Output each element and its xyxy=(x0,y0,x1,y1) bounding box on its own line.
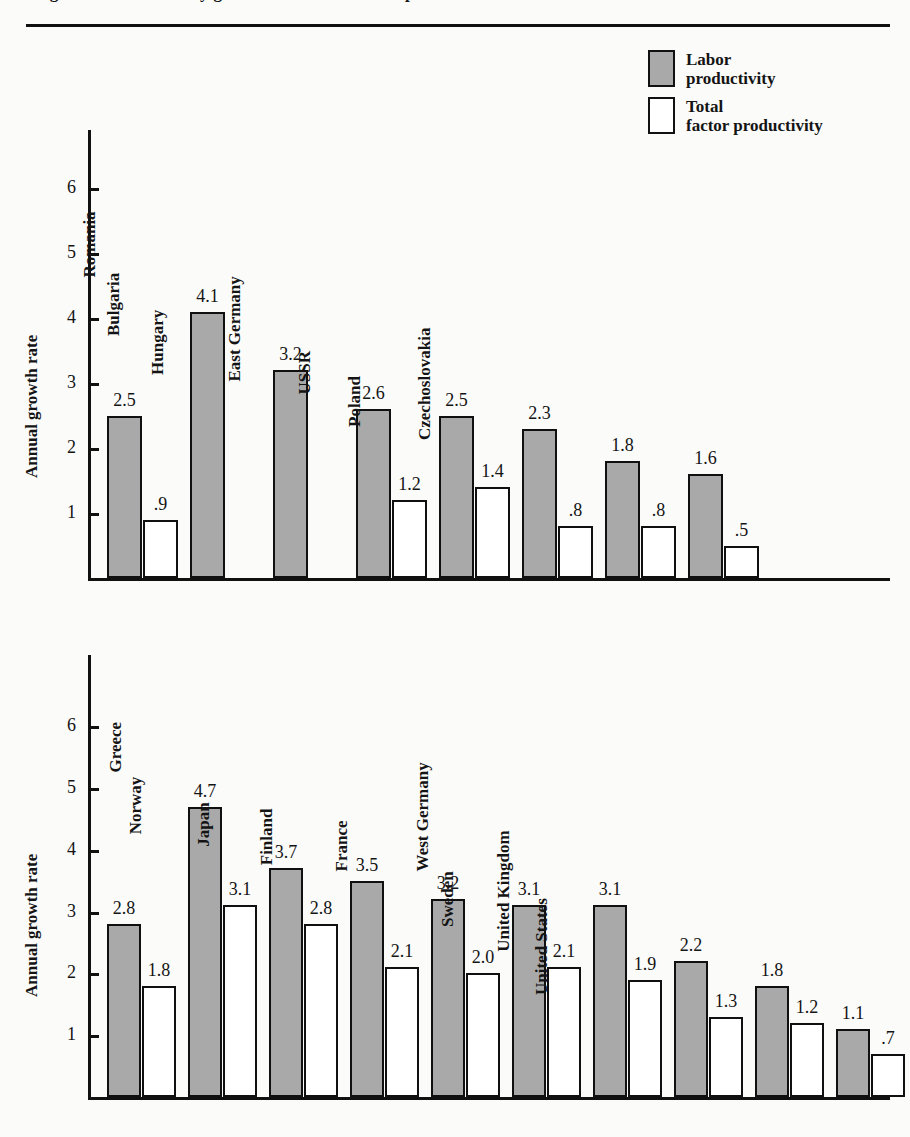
category-label: Czechoslovakia xyxy=(415,328,725,440)
y-axis-tick-label: 6 xyxy=(54,177,76,198)
bar-labor-productivity xyxy=(431,899,465,1097)
bar-value-label: 2.5 xyxy=(101,390,148,411)
bar-value-label: 1.2 xyxy=(386,474,433,495)
bar-total-factor-productivity xyxy=(790,1023,824,1097)
y-axis-tick-label: 2 xyxy=(54,437,76,458)
figure-title-cutoff: Figure x.x Productivity growth in social… xyxy=(34,0,625,3)
x-axis-line xyxy=(88,1097,890,1100)
bar-total-factor-productivity xyxy=(475,487,510,578)
bar-total-factor-productivity xyxy=(223,905,257,1097)
bar-value-label: 1.4 xyxy=(469,461,516,482)
bar-total-factor-productivity xyxy=(392,500,427,578)
bar-total-factor-productivity xyxy=(385,967,419,1097)
bar-value-label: 1.8 xyxy=(136,960,182,981)
bar-total-factor-productivity xyxy=(466,973,500,1097)
y-axis-tick xyxy=(88,912,99,915)
plot-area-capitalist: Annual growth rate1234562.8Capitalist av… xyxy=(0,655,910,1115)
legend-item-labor-productivity: Labor productivity xyxy=(648,50,823,88)
square-swatch-gray-icon xyxy=(648,50,675,87)
bar-value-label: .9 xyxy=(137,494,184,515)
bar-value-label: 1.2 xyxy=(784,997,830,1018)
category-label: Romania xyxy=(80,211,228,277)
bar-value-label: 3.1 xyxy=(217,879,263,900)
bar-total-factor-productivity xyxy=(724,546,759,579)
legend-label-line1: Labor xyxy=(686,50,775,69)
square-swatch-white-icon xyxy=(648,97,675,134)
y-axis-tick xyxy=(88,448,99,451)
legend-label-labor-productivity: Labor productivity xyxy=(686,50,775,88)
y-axis-tick-label: 1 xyxy=(54,502,76,523)
bar-value-label: 2.1 xyxy=(379,941,425,962)
bar-total-factor-productivity xyxy=(304,924,338,1097)
bar-value-label: .5 xyxy=(718,520,765,541)
y-axis-tick-label: 2 xyxy=(54,962,76,983)
y-axis-tick-label: 1 xyxy=(54,1024,76,1045)
bar-total-factor-productivity xyxy=(709,1017,743,1097)
chart-capitalist-economies: Annual growth rate1234562.8Capitalist av… xyxy=(0,655,910,1115)
chart-socialist-economies: Annual growth rate1234562.5Socialist ave… xyxy=(0,130,910,600)
horizontal-rule xyxy=(26,24,890,27)
bar-total-factor-productivity xyxy=(142,986,176,1097)
bar-value-label: 1.1 xyxy=(830,1003,876,1024)
bar-total-factor-productivity xyxy=(641,526,676,578)
bar-total-factor-productivity xyxy=(628,980,662,1097)
bar-value-label: 1.6 xyxy=(682,448,729,469)
y-axis-tick-label: 3 xyxy=(54,901,76,922)
bar-labor-productivity xyxy=(188,807,222,1097)
legend-label-line2: productivity xyxy=(686,69,775,88)
bar-value-label: 2.8 xyxy=(298,898,344,919)
legend-label-line1: Total xyxy=(686,97,823,116)
bar-labor-productivity xyxy=(350,881,384,1097)
bar-total-factor-productivity xyxy=(143,520,178,579)
x-axis-line xyxy=(88,578,890,581)
y-axis-tick xyxy=(88,513,99,516)
bar-total-factor-productivity xyxy=(871,1054,905,1097)
category-label: Capitalist average xyxy=(0,758,143,890)
bar-value-label: .8 xyxy=(552,500,599,521)
y-axis-tick xyxy=(88,383,99,386)
y-axis-tick xyxy=(88,726,99,729)
plot-area-socialist: Annual growth rate1234562.5Socialist ave… xyxy=(0,130,910,600)
bar-value-label: 2.8 xyxy=(101,898,147,919)
bar-labor-productivity xyxy=(273,370,308,578)
y-axis-tick xyxy=(88,973,99,976)
y-axis-tick xyxy=(88,1035,99,1038)
bar-total-factor-productivity xyxy=(558,526,593,578)
category-label: United States xyxy=(532,898,872,995)
bar-value-label: .7 xyxy=(865,1028,910,1049)
y-axis-tick xyxy=(88,188,99,191)
bar-labor-productivity xyxy=(107,924,141,1097)
category-label: Greece xyxy=(106,722,224,773)
bar-value-label: .8 xyxy=(635,500,682,521)
y-axis-tick-label: 6 xyxy=(54,715,76,736)
